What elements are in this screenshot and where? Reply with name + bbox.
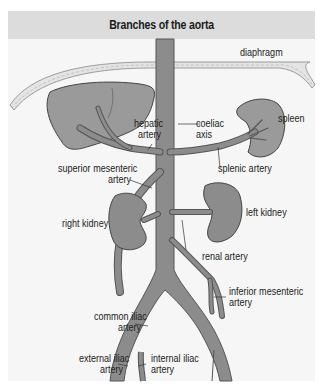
label-left-kidney: left kidney — [246, 207, 287, 218]
label-diaphragm: diaphragm — [240, 47, 283, 58]
label-superior-mesenteric-2: artery — [108, 174, 131, 185]
label-common-iliac-2: artery — [118, 322, 141, 333]
label-right-kidney: right kidney — [62, 218, 108, 229]
label-hepatic-artery-2: artery — [138, 129, 161, 140]
right-kidney — [109, 193, 146, 250]
label-coeliac-axis-2: axis — [196, 129, 212, 140]
label-external-iliac-2: artery — [100, 364, 123, 375]
label-internal-iliac-2: artery — [151, 364, 174, 375]
label-inferior-mesenteric-2: artery — [229, 297, 252, 308]
aorta-diagram — [0, 0, 323, 390]
spleen — [237, 99, 285, 157]
label-splenic-artery: splenic artery — [218, 163, 272, 174]
label-spleen: spleen — [278, 113, 305, 124]
label-renal-artery: renal artery — [202, 251, 248, 262]
